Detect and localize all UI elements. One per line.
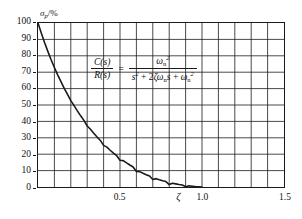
x-tick-label: 1.0 <box>188 192 216 202</box>
formula-den-plus1: + 2 <box>139 72 154 82</box>
formula-den-omega: ω <box>157 72 164 82</box>
figure-container: σp/% 0102030405060708090100 0.51.01.5 ζ … <box>0 0 302 219</box>
formula-den-omega2-sub: n <box>187 76 190 83</box>
formula-right-fraction: ωn2 s2 + 2ζωns + ωn2 <box>129 54 197 83</box>
x-tick-label: 1.5 <box>271 192 299 202</box>
formula-omega-n-sup: 2 <box>166 54 169 61</box>
x-tick-label: 0.5 <box>106 192 134 202</box>
formula-numerator-left: C(s) <box>91 57 113 68</box>
transfer-function-formula: C(s) R(s) = ωn2 s2 + 2ζωns + ωn2 <box>88 54 200 83</box>
formula-denominator-left: R(s) <box>91 69 113 80</box>
formula-den-omega2-sup: 2 <box>191 70 194 77</box>
formula-left-fraction: C(s) R(s) <box>91 57 113 80</box>
formula-omega-n-sub: n <box>163 60 166 67</box>
x-axis-zeta-symbol: ζ <box>176 191 180 202</box>
formula-equals: = <box>118 64 123 74</box>
formula-denominator-right: s2 + 2ζωns + ωn2 <box>129 69 197 83</box>
formula-omega-n-base: ω <box>156 56 163 66</box>
x-axis: 0.51.01.5 <box>0 0 302 219</box>
formula-numerator-right: ωn2 <box>153 54 172 68</box>
formula-den-plus2: + <box>171 72 181 82</box>
